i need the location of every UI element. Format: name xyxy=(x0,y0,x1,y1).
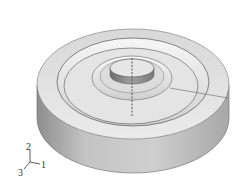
triad-label-2: 2 xyxy=(26,141,31,152)
model-view: 2 1 3 xyxy=(0,0,239,189)
triad-label-1: 1 xyxy=(41,159,46,170)
triad-label-3: 3 xyxy=(18,167,23,178)
coordinate-triad: 2 1 3 xyxy=(18,141,46,178)
